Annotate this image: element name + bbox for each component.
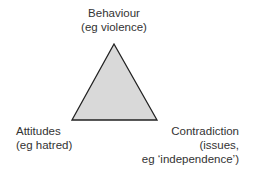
- behaviour-example: (eg violence): [0, 20, 228, 34]
- attitudes-example: (eg hatred): [16, 138, 72, 152]
- contradiction-title: Contradiction: [142, 124, 239, 138]
- vertex-label-attitudes: Attitudes (eg hatred): [16, 124, 72, 152]
- vertex-label-behaviour: Behaviour (eg violence): [0, 6, 228, 34]
- vertex-label-contradiction: Contradiction (issues, eg ‘independence’…: [142, 124, 239, 166]
- behaviour-title: Behaviour: [0, 6, 228, 20]
- contradiction-example-1: (issues,: [142, 138, 239, 152]
- attitudes-title: Attitudes: [16, 124, 72, 138]
- contradiction-example-2: eg ‘independence’): [142, 152, 239, 166]
